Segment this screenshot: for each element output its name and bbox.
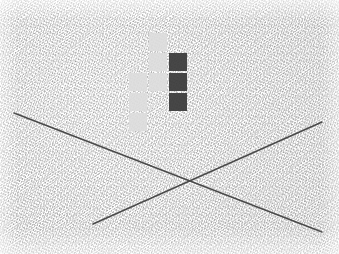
square-r2c3	[169, 53, 187, 71]
line-ascending	[93, 122, 322, 224]
square-r4c3	[169, 93, 187, 111]
square-r2c2	[149, 53, 167, 71]
square-r3c2	[149, 73, 167, 91]
crossing-lines-group	[14, 113, 322, 232]
overlay-graphics	[0, 0, 339, 254]
square-r3c3	[169, 73, 187, 91]
square-r1c2	[149, 33, 167, 51]
square-r3c1	[129, 73, 147, 91]
overlay-square-grid	[129, 33, 187, 131]
image-canvas	[0, 0, 339, 254]
square-r5c1	[129, 113, 147, 131]
line-descending	[14, 113, 322, 232]
square-r4c1	[129, 93, 147, 111]
